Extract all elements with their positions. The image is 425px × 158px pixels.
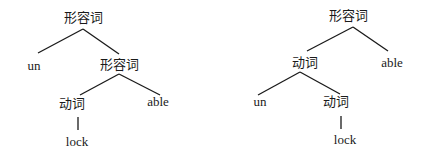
right-inner-verb: 动词 (323, 95, 349, 109)
right-root-adjective: 形容词 (329, 9, 368, 23)
left-prefix-un: un (28, 59, 41, 73)
left-verb: 动词 (59, 97, 85, 111)
right-leaf-lock: lock (334, 133, 356, 147)
right-prefix-un: un (254, 95, 267, 109)
left-inner-adjective: 形容词 (100, 58, 139, 72)
left-leaf-lock: lock (66, 135, 88, 149)
right-suffix-able: able (381, 56, 403, 70)
left-root-adjective: 形容词 (64, 11, 103, 25)
right-outer-verb: 动词 (292, 56, 318, 70)
left-suffix-able: able (147, 95, 169, 109)
